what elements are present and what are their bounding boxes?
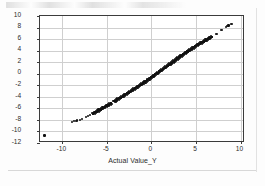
gridline-vertical [107, 16, 108, 141]
y-tick-label: 4 [0, 46, 21, 53]
x-tick-label: 5 [182, 145, 208, 152]
data-point [216, 33, 218, 35]
x-tick-mark [107, 141, 108, 144]
y-tick-label: -8 [0, 116, 21, 123]
x-tick-label: -5 [93, 145, 119, 152]
figure-canvas: Predicted Value_Y 1086420-2-4-6-8-10-12 … [0, 0, 265, 186]
y-tick-label: -6 [0, 104, 21, 111]
gridline-vertical [196, 16, 197, 141]
data-point [111, 103, 113, 105]
x-tick-mark [241, 141, 242, 144]
gridline-horizontal [40, 39, 243, 40]
x-axis-title: Actual Value_Y [0, 157, 265, 164]
data-point [43, 134, 45, 136]
y-tick-label: -12 [0, 139, 21, 146]
gridline-horizontal [40, 51, 243, 52]
data-point [81, 118, 83, 120]
y-tick-mark [37, 143, 40, 144]
data-point [231, 23, 233, 25]
gridline-horizontal [40, 97, 243, 98]
x-tick-mark [62, 141, 63, 144]
scan-smudge-top-icon [6, 2, 186, 8]
gridline-horizontal [40, 131, 243, 132]
y-tick-mark [37, 120, 40, 121]
y-tick-label: 6 [0, 35, 21, 42]
y-tick-mark [37, 62, 40, 63]
x-tick-mark [151, 141, 152, 144]
y-tick-label: 10 [0, 12, 21, 19]
y-tick-mark [37, 39, 40, 40]
gridline-horizontal [40, 108, 243, 109]
y-tick-mark [37, 108, 40, 109]
y-tick-mark [37, 16, 40, 17]
data-point [89, 114, 91, 116]
y-tick-mark [37, 74, 40, 75]
y-tick-label: -4 [0, 93, 21, 100]
x-tick-label: 10 [227, 145, 253, 152]
gridline-horizontal [40, 28, 243, 29]
gridline-horizontal [40, 74, 243, 75]
y-tick-mark [37, 51, 40, 52]
y-tick-label: 0 [0, 69, 21, 76]
x-tick-label: 0 [137, 145, 163, 152]
gridline-vertical [241, 16, 242, 141]
x-tick-label: -10 [48, 145, 74, 152]
y-tick-label: -2 [0, 81, 21, 88]
data-point [221, 29, 223, 31]
x-tick-mark [196, 141, 197, 144]
gridline-horizontal [40, 62, 243, 63]
y-tick-mark [37, 28, 40, 29]
data-point [227, 24, 229, 26]
scan-line-bottom [8, 170, 256, 171]
gridline-vertical [62, 16, 63, 141]
y-tick-label: 8 [0, 23, 21, 30]
y-tick-label: 2 [0, 58, 21, 65]
y-tick-mark [37, 85, 40, 86]
y-tick-label: -10 [0, 127, 21, 134]
y-tick-mark [37, 131, 40, 132]
scan-line-right [256, 8, 257, 172]
y-tick-mark [37, 97, 40, 98]
plot-area [39, 15, 244, 142]
